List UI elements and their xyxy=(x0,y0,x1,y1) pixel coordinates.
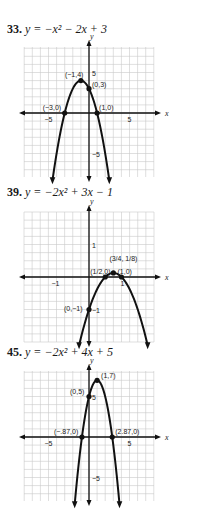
point-marker xyxy=(95,378,100,383)
tick-label: 5 xyxy=(92,394,96,401)
point-marker xyxy=(79,434,84,439)
tick-label: −5 xyxy=(45,440,53,447)
tick-label: −5 xyxy=(92,475,100,482)
arrow-head-icon xyxy=(72,501,78,508)
x-axis-label: x xyxy=(164,433,169,442)
point-label: (0,5) xyxy=(70,388,84,396)
tick-label: 5 xyxy=(128,440,132,447)
point-label: (2.87,0) xyxy=(115,428,139,436)
point-label: (−.87,0) xyxy=(54,428,78,436)
y-axis-label: y xyxy=(89,356,94,365)
arrow-head-icon xyxy=(117,501,123,508)
point-marker xyxy=(86,394,91,399)
point-marker xyxy=(110,434,115,439)
problem-45: 45. y = −2x² + 4x + 5 xy−555−5(1,7)(0,5)… xyxy=(0,0,203,521)
graph-45: xy−555−5(1,7)(0,5)(−.87,0)(2.87,0) xyxy=(0,0,203,521)
point-label: (1,7) xyxy=(101,372,115,380)
